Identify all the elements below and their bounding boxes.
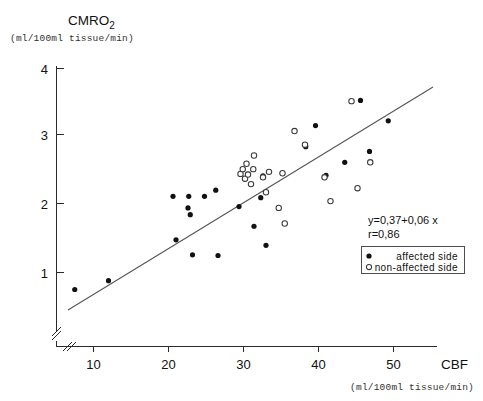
y-tick-label-4: 4 [41, 62, 48, 77]
y-axis-title-subscript: 2 [109, 20, 115, 31]
data-point [276, 205, 281, 210]
chart-canvas: CMRO2 (ml/100ml tissue/min) 4 3 2 1 [0, 0, 483, 401]
data-point [190, 252, 195, 257]
x-axis-tick-labels: 10 20 30 40 50 [86, 357, 400, 372]
x-tick-label-10: 10 [86, 357, 100, 372]
data-point [342, 160, 347, 165]
data-point [236, 204, 241, 209]
series-non-affected-side [238, 98, 373, 226]
data-point [173, 237, 178, 242]
data-point [292, 128, 297, 133]
legend-label-non-affected-side: non-affected side [375, 262, 458, 273]
x-axis-title: CBF [441, 357, 468, 372]
y-axis-ticks [57, 69, 65, 273]
correlation-label: r=0,86 [368, 228, 400, 240]
x-axis-ticks [94, 347, 394, 353]
data-point [263, 243, 268, 248]
data-point [368, 160, 373, 165]
x-tick-label-50: 50 [386, 357, 400, 372]
x-axis-units: (ml/100ml tissue/min) [350, 382, 474, 393]
y-axis-tick-labels: 4 3 2 1 [41, 62, 48, 281]
data-point [240, 166, 245, 171]
data-point [106, 278, 111, 283]
data-point [282, 221, 287, 226]
data-point [367, 149, 372, 154]
data-point [213, 188, 218, 193]
data-point [302, 142, 307, 147]
x-tick-label-40: 40 [311, 357, 325, 372]
data-point [188, 212, 193, 217]
data-point [251, 166, 256, 171]
data-point [260, 175, 265, 180]
data-point [280, 171, 285, 176]
y-axis-title-text: CMRO [68, 13, 109, 28]
regression-equation-label: y=0,37+0,06 x [368, 214, 438, 226]
data-point [215, 253, 220, 258]
data-point [170, 194, 175, 199]
data-point [251, 153, 256, 158]
legend-label-affected-side: affected side [396, 251, 458, 262]
y-axis-title: CMRO2 [68, 13, 115, 31]
y-axis-units: (ml/100ml tissue/min) [10, 33, 134, 44]
data-point [358, 98, 363, 103]
x-tick-label-30: 30 [236, 357, 250, 372]
legend-marker-affected-side [366, 253, 371, 258]
scatter-chart-figure: CMRO2 (ml/100ml tissue/min) 4 3 2 1 [0, 0, 483, 401]
data-point [186, 194, 191, 199]
data-point [248, 181, 253, 186]
data-point [386, 118, 391, 123]
data-point [263, 190, 268, 195]
series-affected-side [72, 98, 391, 292]
y-tick-label-3: 3 [41, 128, 48, 143]
data-point [349, 98, 354, 103]
data-point [313, 123, 318, 128]
data-point [266, 169, 271, 174]
data-point [328, 198, 333, 203]
legend: affected side non-affected side [362, 247, 465, 274]
data-point [258, 195, 263, 200]
regression-line [68, 87, 433, 310]
data-point [244, 161, 249, 166]
data-point [72, 287, 77, 292]
data-point [245, 172, 250, 177]
data-point [355, 185, 360, 190]
data-point [322, 175, 327, 180]
y-tick-label-2: 2 [41, 197, 48, 212]
data-point [185, 205, 190, 210]
data-point [251, 224, 256, 229]
x-tick-label-20: 20 [161, 357, 175, 372]
y-tick-label-1: 1 [41, 266, 48, 281]
axis-break-marks [52, 325, 76, 351]
data-points-layer [72, 98, 391, 292]
legend-marker-non-affected-side [366, 264, 371, 269]
data-point [202, 194, 207, 199]
